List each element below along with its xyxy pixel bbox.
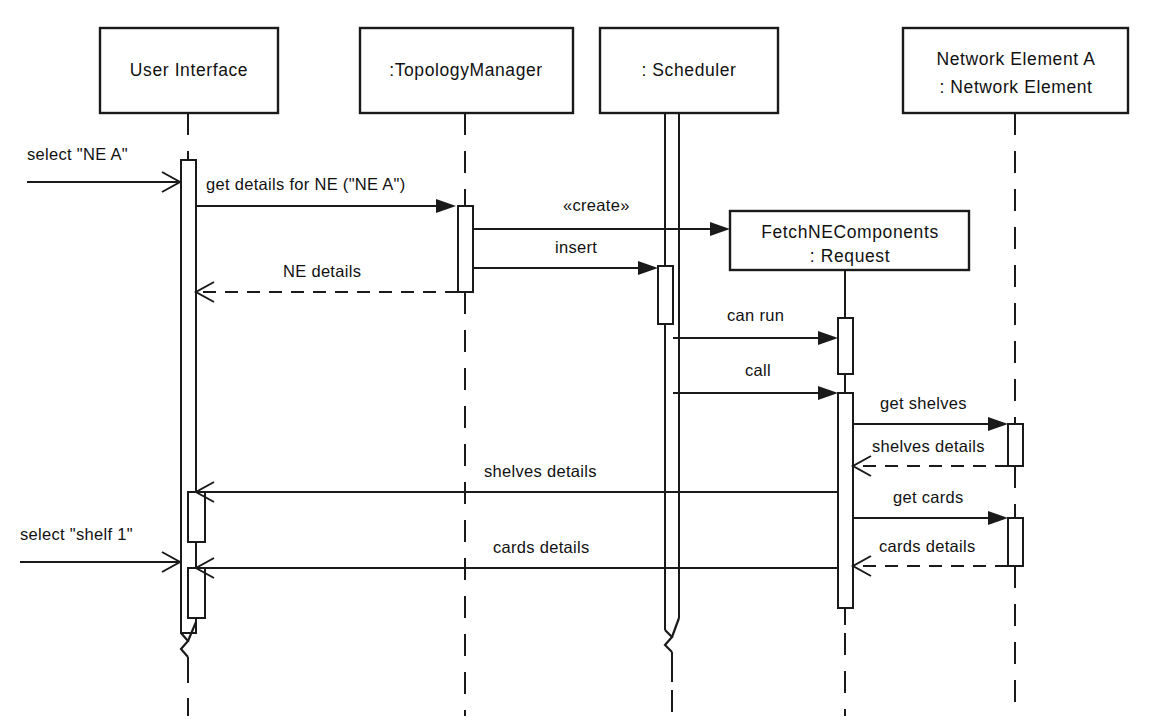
participant-scheduler[interactable]: : Scheduler xyxy=(600,28,778,113)
activation-scheduler xyxy=(658,266,673,324)
message-can-run[interactable]: can run xyxy=(673,306,838,345)
participant-headers: User Interface :TopologyManager : Schedu… xyxy=(100,28,1128,270)
message-label-call: call xyxy=(745,361,771,379)
activation-network-element-shelves xyxy=(1008,424,1023,466)
scheduler-break-zigzag xyxy=(665,630,672,652)
message-label-insert: insert xyxy=(555,238,597,256)
message-select-shelf-1[interactable]: select "shelf 1" xyxy=(20,525,180,572)
message-get-shelves[interactable]: get shelves xyxy=(853,394,1008,431)
participant-box-network-element-a[interactable] xyxy=(903,28,1128,113)
participant-user-interface[interactable]: User Interface xyxy=(100,28,278,113)
message-select-ne-a[interactable]: select "NE A" xyxy=(27,145,180,192)
message-ne-details[interactable]: NE details xyxy=(196,262,458,302)
scheduler-break-connector xyxy=(672,618,679,637)
activation-user-interface-main xyxy=(181,160,196,633)
activation-fetch-ne-can-run xyxy=(838,318,853,374)
activation-user-interface-shelves xyxy=(188,492,205,542)
message-cards-details-ne[interactable]: cards details xyxy=(853,537,1008,576)
activation-fetch-ne-call xyxy=(838,393,853,608)
message-create-request[interactable]: «create» xyxy=(473,196,730,236)
message-get-details-for-ne[interactable]: get details for NE ("NE A") xyxy=(196,175,456,213)
message-arrowhead-can-run xyxy=(818,331,838,345)
message-label-select-shelf-1: select "shelf 1" xyxy=(20,525,133,543)
participant-fetch-ne-components[interactable]: FetchNEComponents : Request xyxy=(730,211,969,270)
message-label-select-ne-a: select "NE A" xyxy=(27,145,128,163)
message-label-can-run: can run xyxy=(727,306,784,324)
participant-topology-manager[interactable]: :TopologyManager xyxy=(360,28,573,113)
participant-label-scheduler: : Scheduler xyxy=(641,60,736,80)
message-arrowhead-get-details-for-ne xyxy=(436,199,456,213)
message-label-create-request: «create» xyxy=(563,196,630,214)
message-label-get-cards: get cards xyxy=(893,488,964,506)
message-arrowhead-create-request xyxy=(710,222,730,236)
activation-network-element-cards xyxy=(1008,518,1023,566)
message-label-shelves-details-ui: shelves details xyxy=(484,462,597,480)
participant-label-network-element-a-line1: Network Element A xyxy=(936,49,1095,69)
message-label-get-details-for-ne: get details for NE ("NE A") xyxy=(206,175,406,193)
message-arrowhead-get-cards xyxy=(988,511,1008,525)
user-interface-break-zigzag xyxy=(181,633,188,657)
message-label-get-shelves: get shelves xyxy=(880,394,967,412)
message-label-ne-details: NE details xyxy=(283,262,361,280)
sequence-diagram-root: User Interface :TopologyManager : Schedu… xyxy=(0,0,1156,724)
participant-label-fetch-ne-components-line2: : Request xyxy=(810,246,890,266)
message-arrowhead-call xyxy=(818,386,838,400)
participant-label-topology-manager: :TopologyManager xyxy=(389,60,543,80)
activation-user-interface-cards xyxy=(188,568,205,618)
message-arrowhead-get-shelves xyxy=(988,417,1008,431)
activation-topology-manager xyxy=(458,206,473,292)
participant-network-element-a[interactable]: Network Element A : Network Element xyxy=(903,28,1128,113)
sequence-diagram-canvas: User Interface :TopologyManager : Schedu… xyxy=(0,0,1156,724)
participant-label-fetch-ne-components-line1: FetchNEComponents xyxy=(761,222,939,242)
message-call[interactable]: call xyxy=(673,361,838,400)
message-label-shelves-details-ne: shelves details xyxy=(872,437,985,455)
message-label-cards-details-ui: cards details xyxy=(493,538,590,556)
message-shelves-details-ne[interactable]: shelves details xyxy=(853,437,1008,476)
message-insert[interactable]: insert xyxy=(473,238,658,275)
message-shelves-details-ui[interactable]: shelves details xyxy=(196,462,838,502)
participant-label-network-element-a-line2: : Network Element xyxy=(939,77,1092,97)
message-arrowhead-insert xyxy=(638,261,658,275)
message-cards-details-ui[interactable]: cards details xyxy=(196,538,838,578)
message-label-cards-details-ne: cards details xyxy=(879,537,976,555)
message-get-cards[interactable]: get cards xyxy=(853,488,1008,525)
participant-label-user-interface: User Interface xyxy=(130,60,248,80)
